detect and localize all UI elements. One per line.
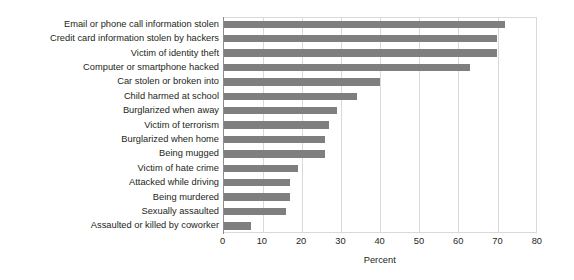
x-tick-label: 0: [220, 236, 225, 247]
bar: [224, 150, 326, 157]
bar-chart: Email or phone call information stolen C…: [0, 0, 574, 280]
bar: [224, 121, 330, 128]
bar: [224, 21, 506, 28]
x-tick-label: 70: [492, 236, 502, 247]
x-tick-label: 30: [335, 236, 345, 247]
category-label: Child harmed at school: [0, 91, 219, 101]
bar: [224, 208, 287, 215]
x-axis-title: Percent: [223, 255, 538, 266]
bar: [224, 222, 251, 229]
bar-row: [224, 132, 537, 146]
category-label: Victim of terrorism: [0, 120, 219, 130]
x-tick-label: 80: [532, 236, 542, 247]
category-label: Being mugged: [0, 148, 219, 158]
bar-row: [224, 204, 537, 218]
bar-row: [224, 89, 537, 103]
bar: [224, 179, 291, 186]
category-label: Computer or smartphone hacked: [0, 62, 219, 72]
x-tick-label: 50: [414, 236, 424, 247]
category-label: Burglarized when home: [0, 134, 219, 144]
bar-row: [224, 147, 537, 161]
x-tick-label: 20: [296, 236, 306, 247]
bar: [224, 165, 298, 172]
bar: [224, 136, 326, 143]
category-label: Victim of hate crime: [0, 163, 219, 173]
category-label: Burglarized when away: [0, 105, 219, 115]
bar: [224, 93, 357, 100]
x-tick-label: 40: [374, 236, 384, 247]
category-label: Car stolen or broken into: [0, 76, 219, 86]
x-axis-tick-labels: 0 10 20 30 40 50 60 70 80: [0, 236, 574, 250]
bar: [224, 107, 337, 114]
bar: [224, 49, 498, 56]
category-label: Victim of identity theft: [0, 48, 219, 58]
bar-row: [224, 60, 537, 74]
bar-row: [224, 31, 537, 45]
bar: [224, 35, 498, 42]
bar: [224, 193, 291, 200]
x-tick-label: 10: [257, 236, 267, 247]
bar-row: [224, 219, 537, 233]
x-tick-label: 60: [453, 236, 463, 247]
bar: [224, 64, 470, 71]
bar-row: [224, 161, 537, 175]
category-label: Assaulted or killed by coworker: [0, 220, 219, 230]
bar-row: [224, 190, 537, 204]
bar-row: [224, 175, 537, 189]
bar-row: [224, 75, 537, 89]
bar-row: [224, 103, 537, 117]
category-label: Email or phone call information stolen: [0, 19, 219, 29]
bar-row: [224, 46, 537, 60]
bar: [224, 78, 381, 85]
category-label: Attacked while driving: [0, 177, 219, 187]
category-label: Sexually assaulted: [0, 206, 219, 216]
category-label: Being murdered: [0, 192, 219, 202]
bars-layer: [224, 17, 537, 233]
bar-row: [224, 17, 537, 31]
category-label: Credit card information stolen by hacker…: [0, 33, 219, 43]
bar-row: [224, 118, 537, 132]
category-axis-labels: Email or phone call information stolen C…: [0, 17, 219, 233]
